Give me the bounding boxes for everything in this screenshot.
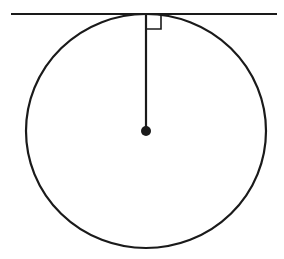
- center-point: [141, 126, 151, 136]
- right-angle-marker: [146, 14, 161, 29]
- geometry-diagram: Tangent line perpendicular to radius: [0, 0, 284, 259]
- diagram-svg: [0, 0, 284, 259]
